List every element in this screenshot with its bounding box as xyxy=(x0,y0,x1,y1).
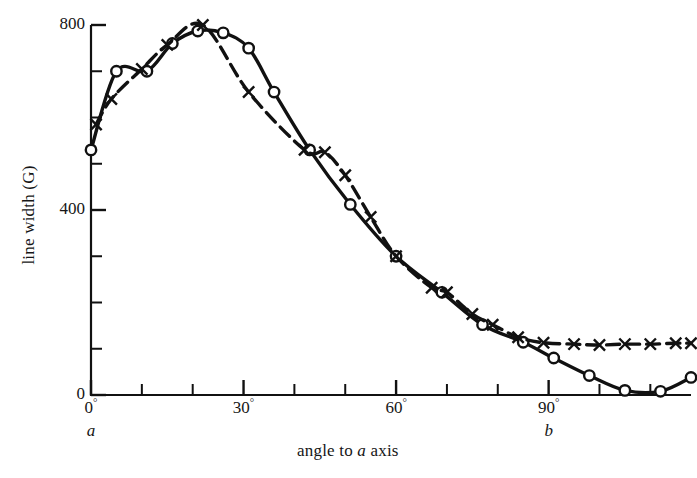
crystal-axis-letter-b: b xyxy=(537,421,561,441)
degree-symbol: ° xyxy=(93,396,97,408)
data-point-circle xyxy=(620,385,630,395)
x-tick-value: 0 xyxy=(85,398,94,417)
y-tick-label-800: 800 xyxy=(39,14,85,34)
x-axis-title-italic: a xyxy=(357,441,366,460)
data-point-circle xyxy=(269,87,279,97)
data-point-cross xyxy=(365,211,376,222)
x-tick-value: 30 xyxy=(233,398,250,417)
x-tick-label-90: 90° xyxy=(525,398,573,418)
x-tick-value: 90 xyxy=(538,398,555,417)
x-axis-title: angle to a axis xyxy=(297,441,399,461)
y-tick-label-400: 400 xyxy=(39,199,85,219)
data-point-cross xyxy=(106,93,117,104)
data-point-circle xyxy=(584,370,594,380)
x-tick-value: 60 xyxy=(385,398,402,417)
x-tick-label-30: 30° xyxy=(220,398,268,418)
degree-symbol: ° xyxy=(555,396,559,408)
data-point-circle xyxy=(686,372,696,382)
x-axis-title-suffix: axis xyxy=(366,441,399,460)
data-point-circle xyxy=(549,353,559,363)
x-tick-label-60: 60° xyxy=(372,398,420,418)
data-point-circle xyxy=(345,199,355,209)
data-point-cross xyxy=(340,170,351,181)
degree-symbol: ° xyxy=(402,396,406,408)
x-axis-title-prefix: angle to xyxy=(297,441,357,460)
crystal-axis-letter-a: a xyxy=(79,421,103,441)
data-point-circle xyxy=(218,28,228,38)
data-point-circle xyxy=(655,386,665,396)
data-point-circle xyxy=(111,66,121,76)
data-point-cross xyxy=(243,86,254,97)
data-point-circle xyxy=(243,43,253,53)
series-crosses xyxy=(90,19,696,350)
degree-symbol: ° xyxy=(250,396,254,408)
x-tick-label-0: 0° xyxy=(67,398,115,418)
figure: line width (G) angle to a axis 04008000°… xyxy=(0,0,697,478)
data-point-circle xyxy=(86,145,96,155)
y-axis-title: line width (G) xyxy=(19,120,39,310)
